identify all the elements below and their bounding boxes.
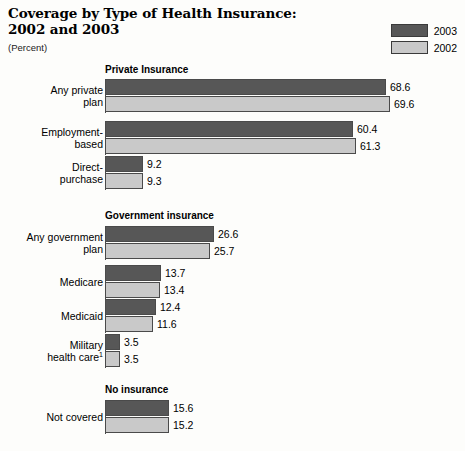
bar-value-label: 15.2 bbox=[173, 419, 193, 431]
bar-value-label: 11.6 bbox=[157, 318, 177, 330]
section-title-private-insurance: Private Insurance bbox=[105, 64, 188, 75]
bar-value-label: 15.6 bbox=[173, 402, 193, 414]
bar-2003 bbox=[105, 400, 169, 416]
category-label-line-1: Any government bbox=[0, 231, 103, 244]
bar-2002 bbox=[105, 351, 120, 367]
category-label-line-1: Military bbox=[0, 339, 103, 352]
bar-value-label: 9.3 bbox=[147, 175, 162, 187]
category-label: Any governmentplan bbox=[0, 231, 103, 256]
bar-value-label: 12.4 bbox=[160, 301, 180, 313]
bar-2002 bbox=[105, 173, 143, 189]
bar-2003 bbox=[105, 79, 386, 95]
category-label: Not covered bbox=[0, 411, 103, 424]
category-label-line-1: Medicaid bbox=[0, 310, 103, 323]
bar-2002 bbox=[105, 243, 210, 259]
footnote-marker: 1 bbox=[99, 351, 103, 358]
bar-value-label: 61.3 bbox=[360, 140, 380, 152]
section-title-government-insurance: Government insurance bbox=[105, 210, 214, 221]
bar-value-label: 3.5 bbox=[124, 336, 139, 348]
bar-value-label: 13.7 bbox=[165, 267, 185, 279]
bar-value-label: 13.4 bbox=[164, 284, 184, 296]
bar-2003 bbox=[105, 156, 143, 172]
bar-2002 bbox=[105, 417, 169, 433]
category-label: Medicare bbox=[0, 276, 103, 289]
category-label-line-1: Any private bbox=[0, 84, 103, 97]
category-label-line-1: Not covered bbox=[0, 411, 103, 424]
bar-value-label: 68.6 bbox=[390, 81, 410, 93]
bar-value-label: 9.2 bbox=[147, 158, 162, 170]
category-label-line-1: Medicare bbox=[0, 276, 103, 289]
bar-value-label: 69.6 bbox=[394, 98, 414, 110]
bar-2002 bbox=[105, 316, 153, 332]
category-label-line-1: Employment- bbox=[0, 126, 103, 139]
category-label: Militaryhealth care1 bbox=[0, 339, 103, 364]
bar-value-label: 60.4 bbox=[357, 123, 377, 135]
bar-2003 bbox=[105, 226, 214, 242]
category-label: Direct-purchase bbox=[0, 161, 103, 186]
bar-2003 bbox=[105, 299, 156, 315]
category-label-line-2: health care1 bbox=[0, 351, 103, 364]
bar-2003 bbox=[105, 334, 120, 350]
category-label-line-2: plan bbox=[0, 96, 103, 109]
bar-2002 bbox=[105, 282, 160, 298]
bar-value-label: 3.5 bbox=[124, 353, 139, 365]
category-label: Any privateplan bbox=[0, 84, 103, 109]
chart-plot-area: Private InsuranceAny privateplan68.669.6… bbox=[0, 0, 465, 451]
category-label-line-1: Direct- bbox=[0, 161, 103, 174]
category-label-line-2: based bbox=[0, 138, 103, 151]
category-label-line-2: plan bbox=[0, 243, 103, 256]
category-label: Medicaid bbox=[0, 310, 103, 323]
section-title-no-insurance: No insurance bbox=[105, 384, 168, 395]
bar-value-label: 26.6 bbox=[218, 228, 238, 240]
bar-2002 bbox=[105, 138, 356, 154]
bar-2003 bbox=[105, 265, 161, 281]
category-label-line-2: purchase bbox=[0, 173, 103, 186]
bar-2003 bbox=[105, 121, 353, 137]
bar-2002 bbox=[105, 96, 390, 112]
bar-value-label: 25.7 bbox=[214, 245, 234, 257]
category-label: Employment-based bbox=[0, 126, 103, 151]
